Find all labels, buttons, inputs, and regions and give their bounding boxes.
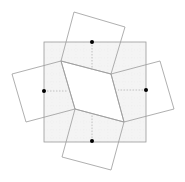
- square-tiling-diagram: [0, 0, 185, 182]
- center-dot-left: [42, 89, 46, 93]
- center-dot-bottom: [90, 139, 94, 143]
- diagram-canvas: [0, 0, 185, 182]
- center-dot-top: [90, 40, 94, 44]
- center-dot-right: [144, 88, 148, 92]
